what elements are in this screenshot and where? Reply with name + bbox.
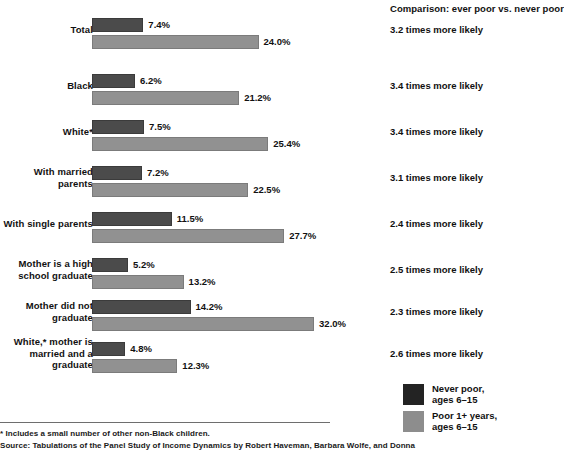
comparison-item: 2.6 times more likely (390, 348, 483, 359)
footer-divider (0, 422, 330, 423)
bar-group-bars: 6.2%21.2% (92, 74, 271, 108)
legend-label: Never poor,ages 6–15 (432, 384, 484, 405)
bar-value-label: 14.2% (191, 300, 223, 314)
bar-group-label-line: graduate (0, 312, 93, 324)
source-text: Source: Tabulations of the Panel Study o… (0, 440, 430, 452)
bar-line: 7.5% (92, 120, 300, 134)
bar-group-bars: 4.8%12.3% (92, 342, 209, 376)
bar-value-label: 32.0% (314, 317, 346, 331)
bar-value-label: 7.5% (144, 120, 171, 134)
bar-value-label: 21.2% (239, 91, 271, 105)
bar-group-label-line: With single parents (0, 218, 93, 230)
bar-line: 32.0% (92, 317, 346, 331)
bar-line: 24.0% (92, 35, 290, 49)
comparison-heading: Comparison: ever poor vs. never poor (390, 3, 564, 14)
bar-line: 5.2% (92, 258, 216, 272)
chart-legend: Never poor,ages 6–15Poor 1+ years,ages 6… (403, 384, 549, 438)
bar-line: 14.2% (92, 300, 346, 314)
legend-label: Poor 1+ years,ages 6–15 (432, 411, 497, 432)
bar-value-label: 4.8% (125, 342, 152, 356)
bar-group-label: White* (0, 126, 93, 138)
bar-group-label-line: White,* mother is (0, 336, 93, 348)
bar-value-label: 11.5% (172, 212, 203, 226)
bar-line: 22.5% (92, 183, 280, 197)
bar-poor-1plus (92, 275, 184, 289)
legend-label-line: ages 6–15 (432, 395, 484, 406)
bar-line: 27.7% (92, 229, 316, 243)
bar-line: 13.2% (92, 275, 216, 289)
bar-poor-1plus (92, 229, 284, 243)
bar-group-bars: 7.2%22.5% (92, 166, 280, 200)
bar-group-bars: 7.5%25.4% (92, 120, 300, 154)
bar-never-poor (92, 300, 191, 314)
legend-swatch-light (403, 411, 424, 432)
bar-value-label: 25.4% (268, 137, 300, 151)
bar-poor-1plus (92, 91, 239, 105)
bar-line: 6.2% (92, 74, 271, 88)
bar-group-label-line: Total (0, 24, 93, 36)
comparison-item: 3.2 times more likely (390, 24, 483, 35)
bar-group-label: White,* mother ismarried and agraduate (0, 336, 93, 371)
legend-swatch-dark (403, 384, 424, 405)
bar-value-label: 24.0% (259, 35, 291, 49)
bar-group-label: Mother did notgraduate (0, 300, 93, 323)
bar-group-label-line: Mother did not (0, 300, 93, 312)
legend-item: Never poor,ages 6–15 (403, 384, 549, 405)
bar-never-poor (92, 212, 172, 226)
bar-value-label: 22.5% (248, 183, 280, 197)
bar-group-bars: 5.2%13.2% (92, 258, 216, 292)
bar-poor-1plus (92, 35, 259, 49)
bar-never-poor (92, 18, 143, 32)
bar-poor-1plus (92, 317, 314, 331)
legend-label-line: Never poor, (432, 384, 484, 395)
bar-value-label: 7.2% (142, 166, 169, 180)
bar-poor-1plus (92, 137, 268, 151)
comparison-item: 3.4 times more likely (390, 126, 483, 137)
bar-group-label-line: White* (0, 126, 93, 138)
legend-label-line: Poor 1+ years, (432, 411, 497, 422)
bar-line: 4.8% (92, 342, 209, 356)
bar-never-poor (92, 258, 128, 272)
footnote-text: * Includes a small number of other non-B… (0, 428, 400, 440)
bar-group-bars: 11.5%27.7% (92, 212, 316, 246)
bar-line: 7.4% (92, 18, 290, 32)
bar-group-label-line: Mother is a high (0, 258, 93, 270)
bar-line: 11.5% (92, 212, 316, 226)
comparison-column: Comparison: ever poor vs. never poor 3.2… (390, 0, 549, 395)
bar-value-label: 7.4% (143, 18, 170, 32)
bar-value-label: 6.2% (135, 74, 162, 88)
bar-value-label: 13.2% (184, 275, 216, 289)
bar-line: 25.4% (92, 137, 300, 151)
bar-line: 7.2% (92, 166, 280, 180)
bar-group-label-line: school graduate (0, 270, 93, 282)
bar-never-poor (92, 342, 125, 356)
bar-value-label: 5.2% (128, 258, 155, 272)
bar-group-label-line: With married (0, 166, 93, 178)
bar-group-label-line: parents (0, 178, 93, 190)
bar-never-poor (92, 120, 144, 134)
bar-chart: Total7.4%24.0%Black6.2%21.2%White*7.5%25… (0, 0, 385, 395)
legend-item: Poor 1+ years,ages 6–15 (403, 411, 549, 432)
bar-poor-1plus (92, 359, 177, 373)
bar-line: 21.2% (92, 91, 271, 105)
bar-value-label: 12.3% (177, 359, 209, 373)
bar-group-bars: 14.2%32.0% (92, 300, 346, 334)
bar-group-label: Mother is a highschool graduate (0, 258, 93, 281)
bar-group-label: With single parents (0, 218, 93, 230)
comparison-item: 2.4 times more likely (390, 218, 483, 229)
bar-poor-1plus (92, 183, 248, 197)
comparison-item: 3.1 times more likely (390, 172, 483, 183)
bar-group-label: Total (0, 24, 93, 36)
comparison-item: 2.3 times more likely (390, 306, 483, 317)
bar-never-poor (92, 74, 135, 88)
bar-group-label: With marriedparents (0, 166, 93, 189)
bar-group-label-line: Black (0, 80, 93, 92)
comparison-item: 2.5 times more likely (390, 264, 483, 275)
bar-value-label: 27.7% (284, 229, 316, 243)
bar-never-poor (92, 166, 142, 180)
bar-group-label: Black (0, 80, 93, 92)
bar-group-label-line: graduate (0, 359, 93, 371)
comparison-item: 3.4 times more likely (390, 80, 483, 91)
bar-line: 12.3% (92, 359, 209, 373)
bar-group-label-line: married and a (0, 348, 93, 360)
